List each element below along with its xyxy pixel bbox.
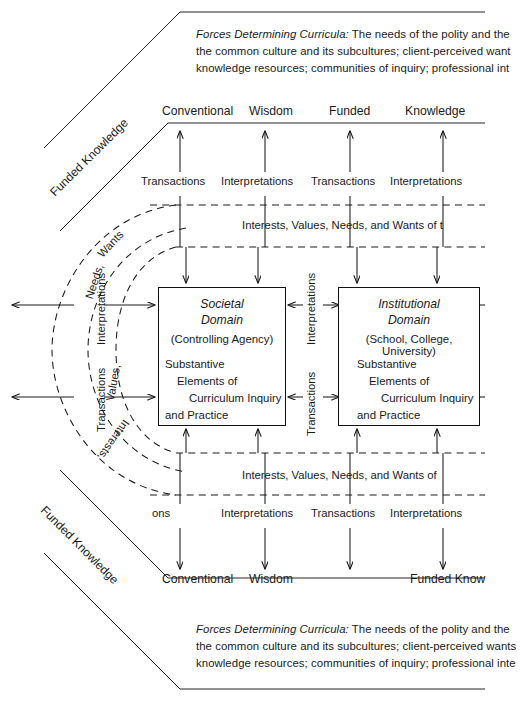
top-mode-interpretations-1: Interpretations — [221, 176, 293, 187]
bottom-mode-transactions-2: Transactions — [311, 508, 375, 519]
bottom-outcome-conventional: Conventional — [162, 573, 233, 585]
top-outcome-arrows — [180, 131, 443, 172]
societal-domain-box: Societal Domain (Controlling Agency) Sub… — [158, 287, 286, 426]
top-banner-line1-rest: The needs of the polity and the — [349, 28, 510, 40]
bottom-mode-transactions-1: ons — [152, 508, 170, 519]
bottom-outcome-funded-knowledge: Funded Know — [410, 573, 485, 585]
top-banner-paragraph: Forces Determining Curricula: The needs … — [196, 26, 521, 78]
bottom-outcome-arrows — [180, 528, 443, 569]
top-outcome-wisdom: Wisdom — [249, 105, 293, 117]
institutional-subtitle: (School, College, University) — [339, 333, 479, 357]
top-outcome-knowledge: Knowledge — [405, 105, 465, 117]
top-banner-lead: Forces Determining Curricula: — [196, 28, 349, 40]
institutional-body-line1: Substantive — [357, 358, 417, 370]
societal-body-line2: Elements of — [177, 375, 237, 387]
top-mode-transactions-2: Transactions — [311, 176, 375, 187]
bottom-banner-line1-rest: The needs of the polity and the — [349, 623, 510, 635]
institutional-body-line3: Curriculum Inquiry — [381, 392, 473, 404]
center-label-interpretations: Interpretations — [306, 273, 317, 345]
top-mode-interpretations-2: Interpretations — [390, 176, 462, 187]
frame-bottom-inner — [60, 470, 485, 578]
top-outcome-funded: Funded — [329, 105, 370, 117]
institutional-body-line2: Elements of — [369, 375, 429, 387]
bottom-banner-line3: knowledge resources; communities of inqu… — [196, 655, 521, 672]
bottom-banner-paragraph: Forces Determining Curricula: The needs … — [196, 621, 521, 673]
band-bottom-text: Interests, Values, Needs, and Wants of — [242, 470, 437, 481]
institutional-body-line4: and Practice — [357, 409, 420, 421]
center-label-transactions: Transactions — [306, 372, 317, 436]
top-banner-line2: the common culture and its subcultures; … — [196, 43, 521, 60]
top-outcome-conventional: Conventional — [162, 105, 233, 117]
societal-subtitle: (Controlling Agency) — [159, 333, 285, 345]
bottom-banner-lead: Forces Determining Curricula: — [196, 623, 349, 635]
bottom-mode-interpretations-2: Interpretations — [390, 508, 462, 519]
bottom-outcome-wisdom: Wisdom — [249, 573, 293, 585]
top-mode-transactions-1: Transactions — [141, 176, 205, 187]
societal-title-line1: Societal — [159, 297, 285, 311]
institutional-domain-box: Institutional Domain (School, College, U… — [338, 287, 480, 426]
band-top-text: Interests, Values, Needs, and Wants of t — [242, 220, 443, 231]
top-banner-line3: knowledge resources; communities of inqu… — [196, 60, 521, 77]
institutional-title-line1: Institutional — [339, 297, 479, 311]
societal-body-line1: Substantive — [165, 358, 225, 370]
bottom-banner-line2: the common culture and its subcultures; … — [196, 638, 521, 655]
societal-body-line4: and Practice — [165, 409, 228, 421]
institutional-title-line2: Domain — [339, 313, 479, 327]
bottom-mode-interpretations-1: Interpretations — [221, 508, 293, 519]
left-outward-arrows — [12, 305, 74, 397]
societal-body-line3: Curriculum Inquiry — [189, 392, 281, 404]
societal-title-line2: Domain — [159, 313, 285, 327]
